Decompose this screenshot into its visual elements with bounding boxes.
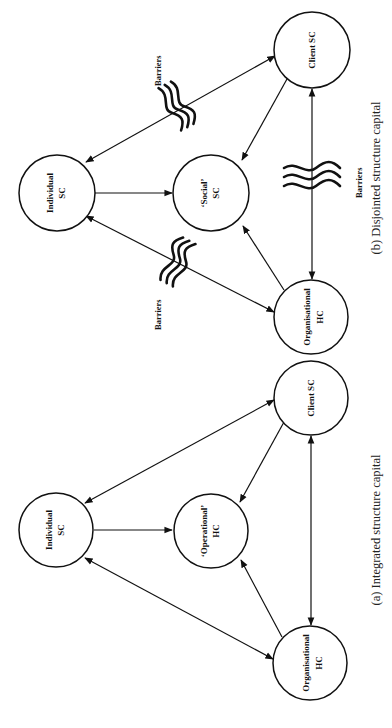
caption-a: (a) Integrated structure capital xyxy=(369,454,383,605)
edge-client-social xyxy=(242,79,287,160)
node-client-sc: Client SC xyxy=(274,12,350,88)
node-label: HC xyxy=(315,310,325,324)
caption-b: (b) Disjointed structure capital xyxy=(369,101,383,255)
barrier-waves-bottom xyxy=(155,235,197,288)
node-label: HC xyxy=(314,656,324,670)
barrier-label-bottom: Barriers xyxy=(153,299,163,330)
node-label: Organisational xyxy=(301,634,311,692)
edge-individual-client xyxy=(86,56,275,162)
edge-individual-organisational xyxy=(85,558,273,659)
node-organisational-hc: Organisational HC xyxy=(274,280,348,354)
panel-b-disjointed: Barriers Barriers Barriers Individual SC… xyxy=(19,12,383,354)
diagram-canvas: Barriers Barriers Barriers Individual SC… xyxy=(0,0,392,728)
node-organisational-hc: Organisational HC xyxy=(273,626,347,700)
panel-a-integrated: Individual SC ‘Operational’ HC Client SC… xyxy=(19,361,383,700)
node-label: Client SC xyxy=(306,379,316,416)
node-social-sc: ‘Social’ SC } xyxy=(173,155,249,231)
node-label: Individual xyxy=(45,172,55,213)
node-label: SC xyxy=(57,187,67,199)
edge-individual-client xyxy=(85,400,274,503)
node-operational-hc: ‘Operational’ HC xyxy=(174,494,248,568)
node-client-sc: Client SC xyxy=(274,361,348,435)
node-individual-sc: Individual SC xyxy=(19,493,93,567)
node-label: ‘Operational’ xyxy=(199,505,209,558)
rotated-figure: Barriers Barriers Barriers Individual SC… xyxy=(0,0,392,728)
node-label: Individual xyxy=(44,509,54,550)
node-label: HC xyxy=(211,524,221,538)
barrier-label-top: Barriers xyxy=(153,55,163,86)
node-individual-sc: Individual SC xyxy=(19,155,95,231)
node-label: ‘Social’ xyxy=(199,179,209,208)
node-label: SC xyxy=(56,524,66,536)
edge-organisational-operational xyxy=(241,560,282,637)
node-label: Client SC xyxy=(307,31,317,68)
edge-client-operational xyxy=(240,422,284,502)
edge-organisational-social xyxy=(243,226,284,290)
node-label: Organisational xyxy=(302,288,312,346)
barrier-label-right: Barriers xyxy=(354,167,364,198)
node-label: SC xyxy=(211,187,221,199)
